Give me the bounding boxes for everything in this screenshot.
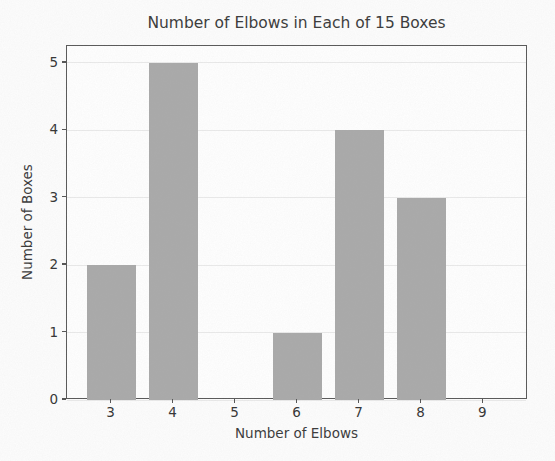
y-tick-mark bbox=[62, 129, 66, 130]
x-tick-label: 3 bbox=[89, 404, 133, 420]
y-tick-mark bbox=[62, 196, 66, 197]
x-tick-label: 7 bbox=[336, 404, 380, 420]
x-tick-mark bbox=[110, 399, 111, 403]
y-gridline bbox=[67, 130, 526, 131]
bar-x7 bbox=[335, 130, 385, 400]
x-tick-mark bbox=[420, 399, 421, 403]
plot-area bbox=[66, 45, 527, 399]
x-tick-mark bbox=[234, 399, 235, 403]
y-tick-label: 2 bbox=[18, 256, 58, 272]
x-axis-label: Number of Elbows bbox=[66, 425, 527, 442]
y-tick-label: 4 bbox=[18, 121, 58, 137]
bar-chart-figure: Number of Elbows in Each of 15 Boxes Num… bbox=[0, 0, 555, 461]
y-axis-label: Number of Boxes bbox=[19, 122, 36, 322]
bar-x3 bbox=[87, 265, 137, 400]
x-tick-mark bbox=[296, 399, 297, 403]
x-tick-label: 4 bbox=[151, 404, 195, 420]
bar-x4 bbox=[149, 63, 199, 400]
x-tick-label: 6 bbox=[275, 404, 319, 420]
bar-x8 bbox=[397, 198, 447, 400]
x-tick-mark bbox=[172, 399, 173, 403]
x-tick-mark bbox=[482, 399, 483, 403]
chart-title: Number of Elbows in Each of 15 Boxes bbox=[66, 13, 527, 33]
y-gridline bbox=[67, 62, 526, 63]
y-tick-mark bbox=[62, 398, 66, 399]
x-tick-label: 8 bbox=[398, 404, 442, 420]
y-tick-label: 3 bbox=[18, 189, 58, 205]
y-tick-label: 5 bbox=[18, 54, 58, 70]
y-tick-mark bbox=[62, 61, 66, 62]
y-tick-label: 0 bbox=[18, 391, 58, 407]
x-tick-label: 5 bbox=[213, 404, 257, 420]
y-tick-mark bbox=[62, 331, 66, 332]
y-tick-mark bbox=[62, 263, 66, 264]
y-tick-label: 1 bbox=[18, 324, 58, 340]
bar-x6 bbox=[273, 333, 323, 400]
y-gridline bbox=[67, 197, 526, 198]
x-tick-label: 9 bbox=[460, 404, 504, 420]
x-tick-mark bbox=[358, 399, 359, 403]
